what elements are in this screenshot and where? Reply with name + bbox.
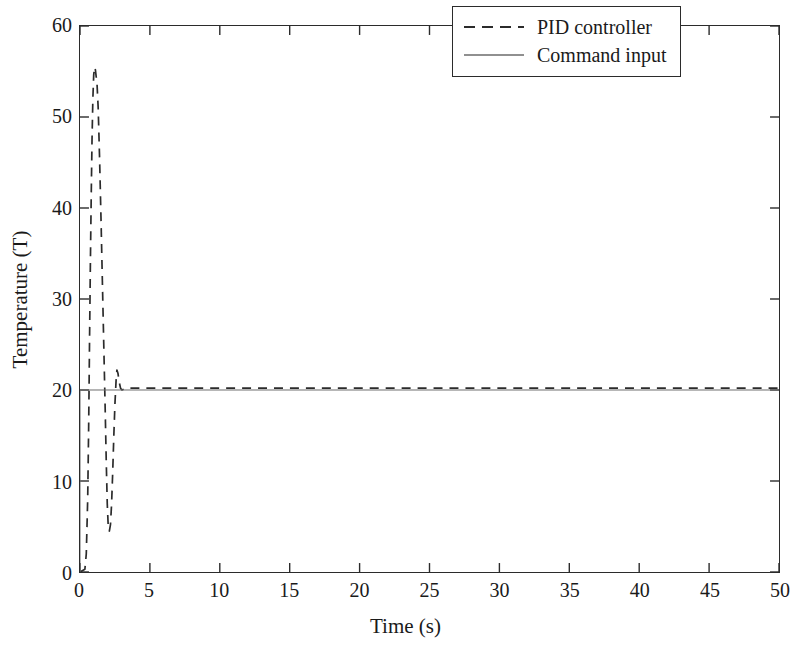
y-tick-label-10: 10 [52, 472, 72, 492]
legend-label-command-input: Command input [537, 44, 666, 67]
x-tick-label-30: 30 [490, 580, 510, 600]
chart-legend: PID controller Command input [452, 6, 681, 77]
figure-canvas: 05101520253035404550 0102030405060 Time … [0, 0, 811, 653]
y-axis-title-wrapper: Temperature (T) [6, 0, 36, 598]
y-tick-label-30: 30 [52, 289, 72, 309]
x-tick-label-35: 35 [560, 580, 580, 600]
y-tick-label-0: 0 [62, 563, 72, 583]
plot-canvas [80, 26, 779, 572]
x-tick-label-45: 45 [700, 580, 720, 600]
y-tick-label-50: 50 [52, 106, 72, 126]
legend-item-command-input: Command input [463, 41, 666, 69]
data-series [80, 67, 779, 572]
legend-item-pid-controller: PID controller [463, 13, 666, 41]
x-axis-title: Time (s) [0, 614, 811, 639]
plot-area [79, 25, 780, 573]
y-tick-label-60: 60 [52, 15, 72, 35]
y-tick-label-20: 20 [52, 380, 72, 400]
x-tick-label-40: 40 [630, 580, 650, 600]
dashed-line-icon [463, 20, 525, 34]
axis-ticks [80, 26, 779, 572]
x-tick-label-15: 15 [279, 580, 299, 600]
solid-line-icon [463, 48, 525, 62]
y-axis-title: Temperature (T) [9, 230, 34, 368]
series-line-pid-controller [80, 67, 779, 572]
x-tick-label-0: 0 [74, 580, 84, 600]
x-tick-label-25: 25 [420, 580, 440, 600]
y-tick-label-40: 40 [52, 198, 72, 218]
legend-label-pid-controller: PID controller [537, 16, 652, 39]
series-line-command-input [80, 390, 779, 572]
x-tick-label-5: 5 [144, 580, 154, 600]
x-tick-label-20: 20 [349, 580, 369, 600]
x-tick-label-10: 10 [209, 580, 229, 600]
x-tick-label-50: 50 [770, 580, 790, 600]
